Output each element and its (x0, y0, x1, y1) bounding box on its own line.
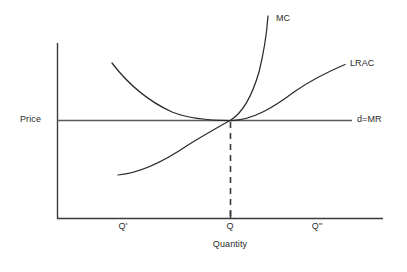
lrac-curve (112, 63, 345, 121)
chart-plot-area (0, 0, 407, 272)
x-tick-label-q: Q (210, 221, 250, 232)
x-tick-label-q-double-prime: Q" (297, 221, 337, 232)
x-axis-title-quantity: Quantity (190, 239, 270, 250)
mc-curve-label: MC (276, 13, 290, 24)
demand-mr-curve-label: d=MR (357, 114, 382, 125)
x-tick-label-q-prime: Q' (103, 221, 143, 232)
lrac-curve-label: LRAC (350, 58, 374, 69)
y-axis-label-price: Price (20, 114, 41, 125)
mc-curve (118, 16, 268, 175)
economics-cost-curve-chart: Price d=MR MC LRAC Q' Q Q" Quantity (0, 0, 407, 272)
